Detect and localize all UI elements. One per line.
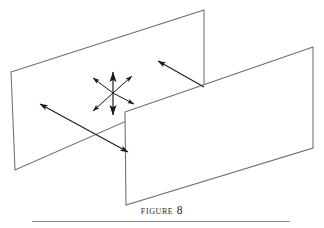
figure-container: Figure 8 <box>0 0 324 228</box>
caption-rule <box>32 221 290 222</box>
figure-illustration <box>0 0 324 228</box>
figure-caption-block: Figure 8 <box>0 200 324 218</box>
figure-caption: Figure 8 <box>141 204 183 217</box>
